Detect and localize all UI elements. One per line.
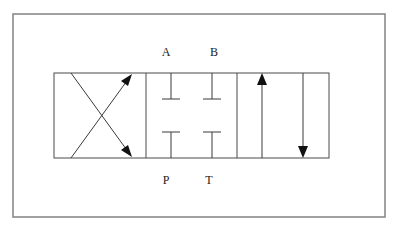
arrowhead-down-icon (298, 146, 308, 158)
valve-outline (54, 73, 329, 158)
arrowhead-up-icon (257, 73, 267, 85)
envelope-crossed (71, 73, 132, 158)
valve-diagram: A B P T (0, 0, 396, 227)
port-label-t: T (205, 173, 213, 187)
cross-path-up (71, 78, 129, 158)
port-label-a: A (162, 45, 171, 59)
arrowhead-up-right-icon (121, 74, 132, 86)
valve-body (54, 73, 329, 158)
arrowhead-down-right-icon (121, 145, 132, 157)
port-label-b: B (210, 45, 218, 59)
envelope-closed-center (162, 73, 221, 158)
envelope-parallel (257, 73, 308, 158)
port-label-p: P (163, 173, 170, 187)
cross-path-down (71, 73, 129, 153)
